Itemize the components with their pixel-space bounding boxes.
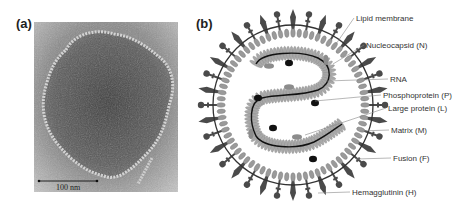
large-protein-dot <box>254 95 262 101</box>
virion-schematic: Lipid membraneNucleocapsid (N)RNAPhospho… <box>0 0 466 209</box>
callout-label: Phosphoprotein (P) <box>383 91 452 100</box>
hemagglutinin-spike <box>367 102 388 108</box>
phosphoprotein-blob <box>324 55 329 65</box>
hemagglutinin-spike <box>303 11 313 33</box>
callout-rna: RNA <box>326 75 408 84</box>
callout-phosphoprotein: Phosphoprotein (P) <box>315 91 452 101</box>
hemagglutinin-spike <box>198 102 219 108</box>
hemagglutinin-spike <box>202 69 224 82</box>
phosphoprotein-blob <box>284 84 294 90</box>
fusion-spike <box>198 85 221 95</box>
callout-label: Hemagglutinin (H) <box>352 188 417 197</box>
fusion-spike <box>198 115 221 125</box>
fusion-spike <box>290 179 296 201</box>
callout-label: Fusion (F) <box>393 154 430 163</box>
callout-label: Large protein (L) <box>388 104 447 113</box>
hemagglutinin-spike <box>273 177 283 199</box>
hemagglutinin-spike <box>361 69 383 82</box>
hemagglutinin-spike <box>202 127 224 140</box>
callout-label: RNA <box>390 75 408 84</box>
envelope-glycoprotein-spikes <box>198 9 388 201</box>
phosphoprotein-blob <box>264 63 274 69</box>
large-protein-dot <box>285 60 293 66</box>
callout-label: Matrix (M) <box>391 126 427 135</box>
fusion-spike <box>365 115 388 125</box>
large-protein-dot <box>269 125 277 131</box>
large-protein-dot <box>309 156 317 162</box>
callout-fusion: Fusion (F) <box>356 154 430 163</box>
phosphoprotein-blob <box>292 134 302 140</box>
callout-label: Nucleocapsid (N) <box>366 41 428 50</box>
fusion-spike <box>290 9 296 31</box>
hemagglutinin-spike <box>361 127 383 140</box>
hemagglutinin-spike <box>303 177 313 199</box>
hemagglutinin-spike <box>273 11 283 33</box>
callout-label: Lipid membrane <box>356 14 414 23</box>
phosphoprotein-blob <box>249 129 254 139</box>
callout-hemagglutinin: Hemagglutinin (H) <box>318 188 417 197</box>
